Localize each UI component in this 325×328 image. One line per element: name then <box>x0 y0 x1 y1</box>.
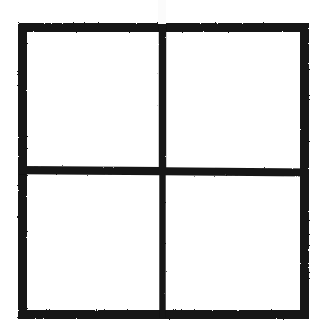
quadrant-top-right <box>167 32 300 167</box>
square-grid-drawing <box>0 0 325 328</box>
scan-streak-artifact <box>158 0 166 24</box>
quadrant-top-left <box>27 32 158 167</box>
quadrant-bottom-left <box>27 176 158 310</box>
horizontal-divider-right <box>162 171 308 172</box>
figure-canvas: Square divided into four equal quadrants… <box>0 0 325 328</box>
quadrant-bottom-right <box>167 176 300 310</box>
horizontal-divider-left <box>19 170 163 171</box>
